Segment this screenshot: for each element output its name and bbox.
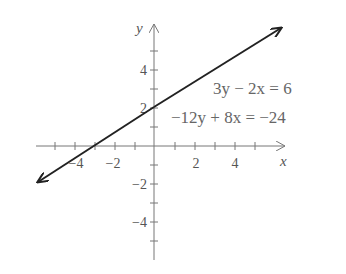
equation-label-1: 3y − 2x = 6 (213, 79, 292, 98)
x-axis (36, 142, 285, 150)
equation-label-2: −12y + 8x = −24 (171, 108, 286, 127)
y-axis (150, 24, 158, 260)
x-axis-label: x (279, 153, 287, 169)
x-tick-label: −2 (106, 156, 121, 171)
graph: −4 −2 2 4 4 2 −2 −4 x y 3y − 2x = 6 −12y… (0, 0, 346, 274)
y-tick-label: −2 (132, 177, 147, 192)
x-tick-label: 4 (232, 156, 239, 171)
y-tick-label: 4 (140, 63, 147, 78)
x-tick-label: 2 (193, 156, 200, 171)
y-axis-label: y (134, 20, 143, 36)
y-tick-label: −4 (132, 215, 147, 230)
